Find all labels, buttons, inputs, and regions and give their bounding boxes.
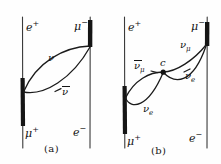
panel-b-label-e-plus: e+	[128, 20, 141, 33]
panel-b-central-vertex-dot	[161, 70, 166, 75]
panel-b-label-anti-nu-mu: νμ	[134, 61, 145, 74]
panel-b-caption: (b)	[151, 146, 166, 156]
panel-b-label-vertex-c: c	[160, 58, 166, 68]
panel-b-anti-nu-mu-arrow	[151, 71, 158, 73]
panel-a-lower-propagator	[24, 47, 91, 93]
feynman-diagram-figure: e+ μ− μ+ e− ν ν (a) e+ μ− μ+ e− c νμ νμ …	[0, 0, 221, 164]
panel-a-label-anti-nu: ν	[62, 87, 68, 97]
panel-b-label-nu-mu: νμ	[180, 40, 191, 53]
panel-b-label-nu-e-lower: νe	[143, 104, 153, 117]
panel-a-label-e-plus: e+	[26, 20, 39, 33]
panel-a-label-nu: ν	[48, 53, 54, 63]
panel-a-label-e-minus: e−	[73, 125, 86, 138]
panel-b-label-e-minus: e−	[189, 131, 202, 144]
panel-b-label-mu-minus: μ−	[191, 19, 205, 32]
panel-b-label-nu-e-upper: νe	[185, 71, 195, 84]
panel-a-label-mu-minus: μ−	[74, 19, 88, 32]
panel-a-upper-propagator	[24, 46, 91, 92]
panel-a-caption: (a)	[44, 144, 59, 154]
panel-a-lower-propagator-arrow	[55, 89, 61, 92]
panel-a-label-mu-plus: μ+	[25, 126, 39, 139]
panel-b-label-mu-plus: μ+	[127, 134, 141, 147]
panel-a-anti-nu-overbar	[62, 86, 70, 87]
panel-b-anti-nu-mu-overbar	[134, 60, 142, 61]
